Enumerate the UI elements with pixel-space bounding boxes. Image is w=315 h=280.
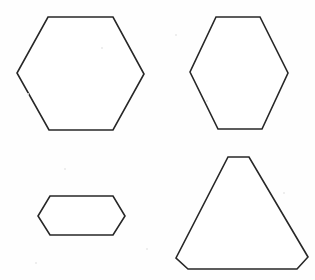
- shapes-svg: [0, 0, 315, 280]
- shape-truncated-triangle-hexagon: [176, 157, 308, 269]
- figure-canvas: [0, 0, 315, 280]
- shape-regular-hexagon: [17, 17, 144, 130]
- shape-flattened-hexagon: [38, 196, 125, 235]
- shape-tall-hexagon: [190, 17, 288, 129]
